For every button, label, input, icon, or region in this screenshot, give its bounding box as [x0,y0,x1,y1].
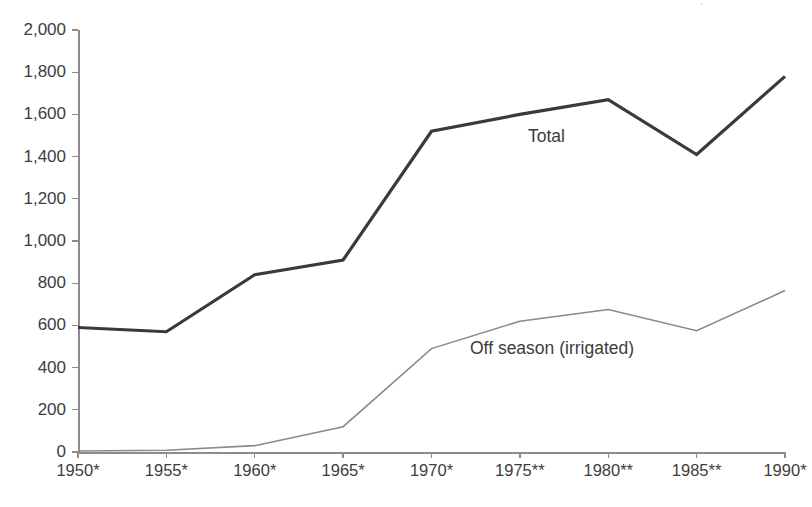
series-lines [0,0,812,507]
chart-container: . 02004006008001,0001,2001,4001,6001,800… [0,0,812,507]
plot-area: 02004006008001,0001,2001,4001,6001,8002,… [0,0,812,507]
series-label-total: Total [528,128,565,146]
line-off-season [78,291,785,451]
series-label-off-season: Off season (irrigated) [470,340,634,358]
line-total [78,76,785,331]
